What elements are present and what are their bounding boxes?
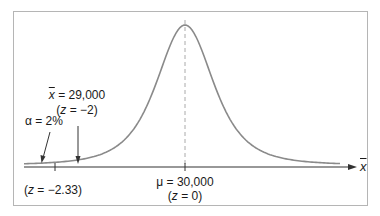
alpha-pointer bbox=[43, 132, 50, 158]
mean-label: μ = 30,000 bbox=[145, 175, 225, 189]
observed-z-value: = −2) bbox=[66, 103, 97, 117]
critical-z-label: (z = −2.33) bbox=[24, 183, 82, 197]
axis-arrowhead-icon bbox=[348, 164, 357, 170]
axis-label: x bbox=[360, 160, 367, 174]
alpha-label: α = 2% bbox=[25, 114, 63, 128]
alpha-arrowhead-icon bbox=[41, 155, 46, 163]
mean-z-label: (z = 0) bbox=[145, 189, 225, 203]
critical-z-value: = −2.33) bbox=[34, 183, 82, 197]
observed-value: = 29,000 bbox=[55, 88, 105, 102]
xbar-axis-symbol: x bbox=[360, 159, 367, 174]
mean-z-value: = 0) bbox=[178, 189, 202, 203]
observed-label: x = 29,000 bbox=[44, 88, 110, 102]
